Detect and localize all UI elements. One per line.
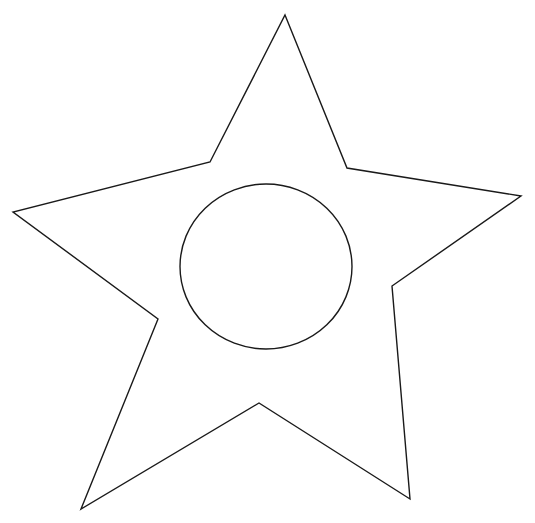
star-with-circle-diagram (0, 0, 535, 523)
circle-shape (180, 184, 352, 349)
star-shape (13, 15, 521, 509)
